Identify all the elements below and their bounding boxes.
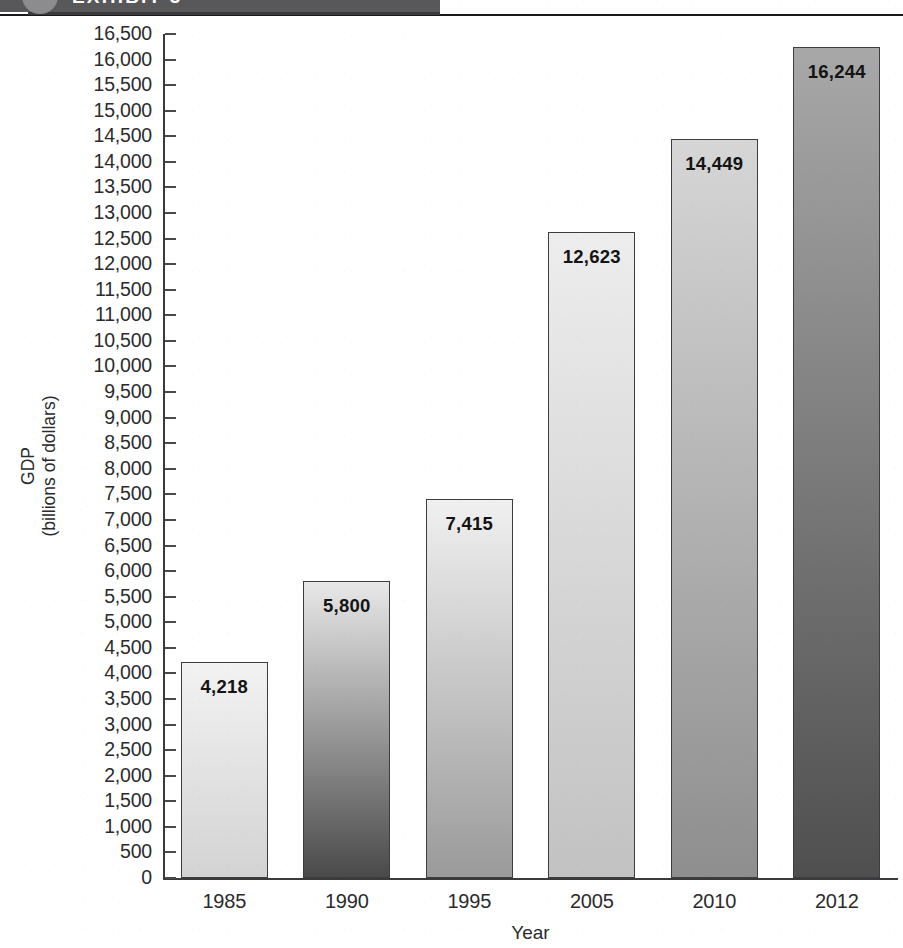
y-axis-tick-label: 12,500 (34, 229, 152, 249)
bar-value-label: 7,415 (427, 513, 512, 535)
y-axis-tick (165, 800, 176, 802)
bar-1985: 4,218 (181, 662, 268, 878)
x-axis-tick-label: 2005 (532, 890, 652, 913)
exhibit-banner (0, 0, 440, 12)
y-axis-tick-label: 14,000 (34, 152, 152, 172)
bar-1995: 7,415 (426, 499, 513, 878)
y-axis-tick (165, 672, 176, 674)
y-axis-tick-label: 13,500 (34, 177, 152, 197)
y-axis-tick-label: 15,000 (34, 101, 152, 121)
y-axis-tick (165, 263, 176, 265)
y-axis-tick (165, 570, 176, 572)
y-axis-tick (165, 110, 176, 112)
bar-value-label: 14,449 (672, 153, 757, 175)
x-axis-tick-label: 1990 (287, 890, 407, 913)
y-axis-tick (165, 468, 176, 470)
y-axis-tick-label: 11,000 (34, 305, 152, 325)
y-axis-tick-label: 4,500 (34, 638, 152, 658)
x-axis-tick-label: 1995 (409, 890, 529, 913)
y-axis-tick-label: 15,500 (34, 75, 152, 95)
bar-value-label: 16,244 (794, 61, 879, 83)
y-axis-tick (165, 340, 176, 342)
bar-2012: 16,244 (793, 47, 880, 878)
y-axis-tick (165, 365, 176, 367)
y-axis-tick (165, 877, 176, 879)
bar-value-label: 5,800 (304, 595, 389, 617)
y-axis-tick (165, 135, 176, 137)
y-axis-tick-label: 3,500 (34, 689, 152, 709)
y-axis-tick-label: 13,000 (34, 203, 152, 223)
y-axis-tick-label: 4,000 (34, 663, 152, 683)
y-axis-tick-label: 5,000 (34, 612, 152, 632)
y-axis-tick (165, 545, 176, 547)
y-axis-tick (165, 289, 176, 291)
x-axis-title: Year (163, 922, 898, 944)
y-axis-tick-label: 0 (34, 868, 152, 888)
y-axis-tick (165, 186, 176, 188)
y-axis-tick-label: 3,000 (34, 715, 152, 735)
y-axis-tick-label: 1,000 (34, 817, 152, 837)
y-axis-tick (165, 442, 176, 444)
y-axis-tick (165, 596, 176, 598)
bar-1990: 5,800 (303, 581, 390, 878)
y-axis-tick-label: 11,500 (34, 280, 152, 300)
y-axis-tick (165, 621, 176, 623)
y-axis-tick-label: 16,000 (34, 50, 152, 70)
y-axis-tick (165, 519, 176, 521)
x-axis-tick-label: 2012 (777, 890, 897, 913)
y-axis-tick (165, 391, 176, 393)
y-axis-title: GDP (billions of dollars) (18, 351, 60, 581)
y-axis-tick-label: 2,500 (34, 740, 152, 760)
y-axis-tick (165, 647, 176, 649)
y-axis-tick-label: 12,000 (34, 254, 152, 274)
x-axis-line (163, 878, 898, 880)
y-axis-tick-label: 5,500 (34, 587, 152, 607)
y-axis-tick-label: 1,500 (34, 791, 152, 811)
y-axis-tick (165, 493, 176, 495)
y-axis-tick (165, 84, 176, 86)
x-axis-tick-label: 2010 (654, 890, 774, 913)
y-axis-tick (165, 314, 176, 316)
y-axis-tick (165, 851, 176, 853)
y-axis-tick (165, 826, 176, 828)
y-axis-tick (165, 238, 176, 240)
y-axis-tick (165, 417, 176, 419)
y-axis-tick (165, 59, 176, 61)
y-axis-tick-label: 16,500 (34, 24, 152, 44)
bar-2005: 12,623 (548, 232, 635, 878)
y-axis-tick-label: 10,500 (34, 331, 152, 351)
y-axis-tick (165, 749, 176, 751)
exhibit-title: EXHIBIT 3 (72, 0, 183, 8)
bar-2010: 14,449 (671, 139, 758, 878)
y-axis-tick-label: 2,000 (34, 766, 152, 786)
y-axis-tick-label: 500 (34, 842, 152, 862)
y-axis-tick (165, 33, 176, 35)
bar-value-label: 4,218 (182, 676, 267, 698)
y-axis-tick (165, 775, 176, 777)
x-axis-tick-label: 1985 (164, 890, 284, 913)
y-axis-tick (165, 161, 176, 163)
bar-value-label: 12,623 (549, 246, 634, 268)
gdp-bar-chart: 16,50016,00015,50015,00014,50014,00013,5… (0, 0, 903, 948)
y-axis-tick (165, 724, 176, 726)
y-axis-tick (165, 698, 176, 700)
y-axis-tick-label: 14,500 (34, 126, 152, 146)
y-axis-tick (165, 212, 176, 214)
